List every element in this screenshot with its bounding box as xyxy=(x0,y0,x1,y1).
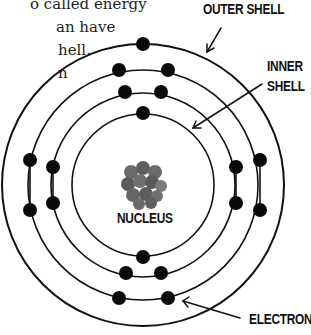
electron xyxy=(161,291,175,305)
inner-shell-label-line1: INNER xyxy=(267,58,303,75)
arrows xyxy=(183,28,262,318)
electron-arrow-icon xyxy=(183,301,240,318)
electron xyxy=(136,37,150,51)
electron xyxy=(112,291,126,305)
electron xyxy=(229,160,243,174)
nucleus-label: NUCLEUS xyxy=(117,210,173,227)
electron xyxy=(119,266,133,280)
electron xyxy=(253,153,267,167)
outer-shell-label: OUTER SHELL xyxy=(203,1,284,18)
electron xyxy=(112,63,126,77)
electron xyxy=(154,85,168,99)
electron-label: ELECTRON xyxy=(249,311,311,328)
electron xyxy=(118,85,132,99)
electron xyxy=(23,153,37,167)
electron xyxy=(136,250,150,264)
atom-diagram xyxy=(0,0,311,335)
electron xyxy=(253,203,267,217)
nucleus-icon xyxy=(121,161,167,210)
electron xyxy=(136,106,150,120)
inner-shell-label-line2: SHELL xyxy=(267,78,305,95)
electron xyxy=(154,266,168,280)
electron xyxy=(161,63,175,77)
inner-shell-arrow-icon xyxy=(193,84,262,128)
electron xyxy=(46,160,60,174)
electron xyxy=(23,203,37,217)
electron xyxy=(46,196,60,210)
electron xyxy=(229,196,243,210)
